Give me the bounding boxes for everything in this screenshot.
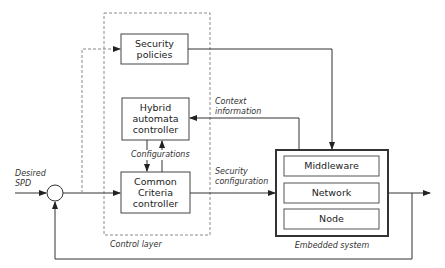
embedded-system-label: Embedded system [276,241,388,251]
control-layer-label: Control layer [110,240,162,250]
security-policies-label: Security policies [121,38,188,60]
hybrid-automata-label: Hybrid automata controller [122,102,189,135]
dashed-to-security-policies [82,49,120,193]
context-information-arrow [190,118,299,150]
context-information-label: Context information [215,97,261,117]
summing-junction [47,185,63,201]
node-label: Node [284,213,379,224]
security-configuration-label: Security configuration [215,167,268,187]
desired-spd-label: Desired SPD [15,169,46,189]
middleware-label: Middleware [284,160,379,171]
configurations-label: Configurations [131,150,190,160]
diagram-canvas [0,0,445,268]
network-label: Network [284,187,379,198]
common-criteria-label: Common Criteria controller [121,176,190,209]
